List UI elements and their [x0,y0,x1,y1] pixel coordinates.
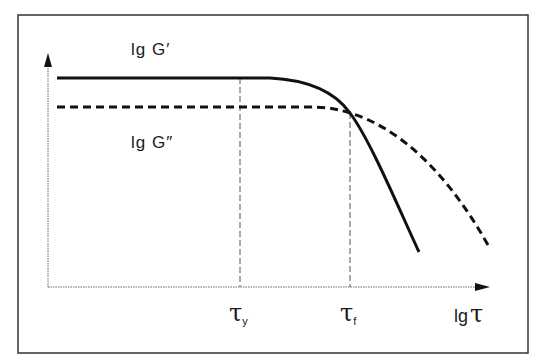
x-axis-symbol: τ [470,300,483,328]
tau-f-label: τf [340,299,356,327]
x-axis-arrow-icon [475,283,490,291]
tau-f-symbol: τ [340,299,353,327]
g-prime-label: lg G′ [131,40,170,60]
tau-y-label: τy [229,299,248,327]
tau-y-symbol: τ [229,299,242,327]
g-double-prime-label: lg G″ [131,133,173,153]
tau-f-subscript: f [353,315,356,327]
y-axis-arrow-icon [44,53,52,67]
figure-frame [18,15,528,353]
x-axis-label: lgτ [454,300,483,328]
x-axis-prefix: lg [454,306,468,326]
g-double-prime-curve [57,107,488,245]
tau-y-subscript: y [242,315,248,327]
g-prime-curve [57,78,419,252]
